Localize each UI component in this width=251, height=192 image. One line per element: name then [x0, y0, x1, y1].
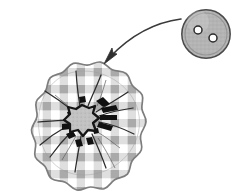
arrow-head — [104, 48, 117, 64]
arrow-curve — [110, 19, 181, 57]
button-hole-lower-right — [209, 34, 217, 42]
pointer-arrow — [104, 19, 181, 64]
craft-illustration-svg — [0, 0, 251, 192]
gathered-center-opening — [64, 105, 99, 136]
button-hole-upper-left — [194, 26, 202, 34]
two-hole-button — [182, 10, 230, 58]
illustration-canvas — [0, 0, 251, 192]
gingham-fabric-circle — [18, 56, 152, 192]
